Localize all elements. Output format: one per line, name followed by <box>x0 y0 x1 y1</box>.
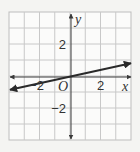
x-tick-label: 2 <box>97 78 104 93</box>
y-tick-label: −2 <box>51 101 66 116</box>
y-tick-label: 2 <box>59 37 66 52</box>
y-axis-label: y <box>73 12 82 27</box>
x-axis-label: x <box>121 79 129 94</box>
x-tick-label: −2 <box>29 78 44 93</box>
origin-label: O <box>58 79 68 94</box>
coordinate-graph: y x O −222−2 <box>0 0 140 152</box>
